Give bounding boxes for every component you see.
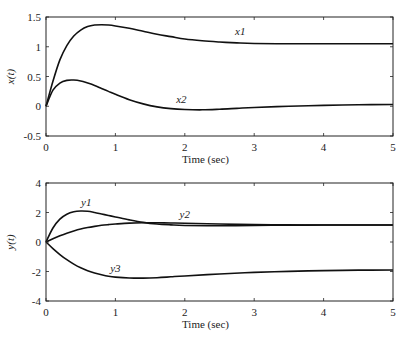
x-axis-title: Time (sec): [182, 318, 229, 331]
series-label-y1: y1: [80, 196, 91, 208]
y-tick-label: 0.5: [27, 71, 41, 83]
x-tick-label: 1: [113, 141, 119, 153]
x-tick-label: 2: [182, 141, 188, 153]
x-tick-label: 0: [43, 141, 49, 153]
x-tick-label: 3: [251, 141, 257, 153]
series-label-y3: y3: [109, 262, 121, 274]
y-tick-label: 4: [36, 177, 42, 189]
series-x1-line: [46, 25, 393, 107]
series-label-x1: x1: [234, 25, 245, 37]
x-tick-label: 1: [113, 306, 119, 318]
x-tick-label: 4: [321, 141, 327, 153]
y-axis-title: x(t): [4, 69, 17, 86]
y-tick-label: -2: [32, 266, 41, 278]
figure: 012345-0.500.511.5Time (sec)x(t)x1x2 012…: [0, 0, 408, 338]
axes-frame: [46, 17, 393, 136]
x-tick-label: 3: [251, 306, 257, 318]
x-tick-label: 0: [43, 306, 49, 318]
axes-frame: [46, 183, 393, 301]
x-tick-label: 5: [390, 141, 396, 153]
y-tick-label: 1.5: [27, 11, 41, 23]
y-tick-label: -0.5: [24, 130, 42, 142]
plot-y-response: 012345-4-2024Time (sec)y(t)y1y2y3: [4, 177, 396, 331]
y-tick-label: 1: [36, 41, 42, 53]
series-label-x2: x2: [175, 93, 187, 105]
x-axis-title: Time (sec): [182, 153, 229, 166]
y-tick-label: 0: [36, 100, 42, 112]
y-tick-label: -4: [32, 295, 42, 307]
series-y3-line: [46, 242, 393, 278]
y-tick-label: 2: [36, 207, 42, 219]
x-tick-label: 2: [182, 306, 188, 318]
x-tick-label: 4: [321, 306, 327, 318]
plot-x-response: 012345-0.500.511.5Time (sec)x(t)x1x2: [4, 11, 396, 166]
x-tick-label: 5: [390, 306, 396, 318]
y-tick-label: 0: [36, 236, 42, 248]
series-x2-line: [46, 80, 393, 110]
y-axis-title: y(t): [4, 234, 17, 251]
series-label-y2: y2: [179, 208, 191, 220]
